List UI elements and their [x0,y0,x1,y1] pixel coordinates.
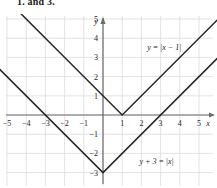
x-tick-label: 4 [178,119,182,128]
axis-names: xy [93,17,210,128]
y-axis-name: y [93,17,98,26]
x-tick-label: 3 [159,119,163,128]
x-tick-label: 2 [139,119,143,128]
y-tick-label: 4 [94,34,98,43]
x-tick-label: −2 [60,119,69,128]
graph-figure: −5−4−3−2−11234554321−1−2−3 y = |x − 1|y … [0,14,217,188]
y-tick-label: −3 [89,169,98,178]
y-tick-label: −1 [89,130,98,139]
page-title: 1. and 3. [17,0,55,7]
y-tick-label: −2 [89,149,98,158]
x-tick-label: −5 [3,119,12,128]
y-tick-label: 3 [94,53,98,62]
curves [0,14,217,173]
coordinate-plane-plot: −5−4−3−2−11234554321−1−2−3 y = |x − 1|y … [0,14,217,188]
curve-label-2: y + 3 = |x| [138,157,173,166]
axes [6,17,215,184]
x-tick-label: 1 [120,119,124,128]
grid-lines [6,16,213,186]
y-axis-arrowhead [100,17,105,24]
x-axis-name: x [205,119,210,128]
y-tick-label: 2 [94,73,98,82]
curve-1 [7,14,217,115]
x-tick-label: 5 [197,119,201,128]
x-tick-label: −4 [22,119,31,128]
y-tick-label: 1 [94,92,98,101]
x-axis-arrowhead [209,112,215,117]
x-tick-label: −1 [80,119,89,128]
curve-label-1: y = |x − 1| [146,43,181,52]
x-tick-label: −3 [41,119,50,128]
